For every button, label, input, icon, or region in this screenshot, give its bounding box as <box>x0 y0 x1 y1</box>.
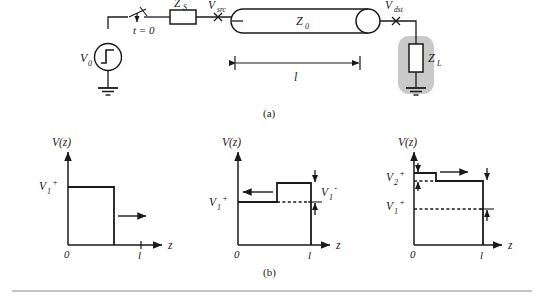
transmission-line-figure: t = 0 Z S V src V 0 Z 0 V dst <box>0 0 544 297</box>
source-top-wire <box>108 17 128 29</box>
plot-1-xaxis-label: z <box>167 239 173 251</box>
plot-3-level2-sup: + <box>399 168 405 178</box>
plot-2-level-sub: 1 <box>217 203 221 212</box>
plot-2-end-label: l <box>308 249 311 261</box>
plot-1-yaxis-label: V(z) <box>52 136 71 149</box>
plot-1: V(z) z V 1 + 0 l <box>39 136 173 261</box>
plot-3-end-label: l <box>480 249 483 261</box>
source-voltage-sub: 0 <box>88 59 92 68</box>
plot-3-yaxis-label: V(z) <box>398 136 417 149</box>
plot-3-level1-sup: + <box>399 197 405 207</box>
plot-1-origin-label: 0 <box>64 248 70 260</box>
figure-container: t = 0 Z S V src V 0 Z 0 V dst <box>0 0 544 297</box>
plot-1-waveform <box>68 187 114 245</box>
plot-3-origin-label: 0 <box>410 248 416 260</box>
plot-2-origin-label: 0 <box>234 248 240 260</box>
plot-2-reflect-sup: - <box>334 183 337 193</box>
switch-time-label: t = 0 <box>133 24 155 36</box>
load-impedance-sub: L <box>436 59 442 68</box>
caption-b: (b) <box>263 266 276 279</box>
voltage-source-symbol <box>95 44 122 71</box>
source-probe-sub: src <box>217 5 227 14</box>
series-impedance-label: Z <box>174 0 181 9</box>
source-probe-label: V <box>208 0 217 11</box>
series-impedance-sub: S <box>183 3 187 12</box>
plot-3-xaxis-label: z <box>507 239 513 251</box>
plot-2-xaxis-label: z <box>335 239 341 251</box>
plot-2-yaxis-label: V(z) <box>222 136 241 149</box>
transmission-line-right-connector <box>356 9 380 33</box>
length-label: l <box>294 70 298 84</box>
load-impedance-box <box>409 44 423 72</box>
circuit-diagram: t = 0 Z S V src V 0 Z 0 V dst <box>80 0 442 120</box>
plot-1-level-sub: 1 <box>47 187 51 196</box>
plot-2-reflect-sub: 1 <box>329 193 333 202</box>
load-impedance-label: Z <box>428 51 435 65</box>
caption-a: (a) <box>263 107 276 120</box>
plot-2-level-sup: + <box>222 193 228 203</box>
plot-1-level-sup: + <box>52 177 58 187</box>
plot-3: V(z) z V 2 + V 1 + 0 l <box>386 136 513 261</box>
line-impedance-sub: 0 <box>305 22 309 31</box>
series-impedance-box <box>170 10 196 24</box>
plot-1-end-label: l <box>138 249 141 261</box>
dest-probe-sub: dst <box>394 5 404 14</box>
dest-probe-label: V <box>385 0 394 11</box>
plot-3-level1-sub: 1 <box>394 207 398 216</box>
plot-3-level2-sub: 2 <box>394 178 398 187</box>
plot-2: V(z) z V 1 + V 1 - 0 l <box>209 136 341 261</box>
source-ground-icon <box>98 88 118 95</box>
line-impedance-label: Z <box>296 14 303 28</box>
